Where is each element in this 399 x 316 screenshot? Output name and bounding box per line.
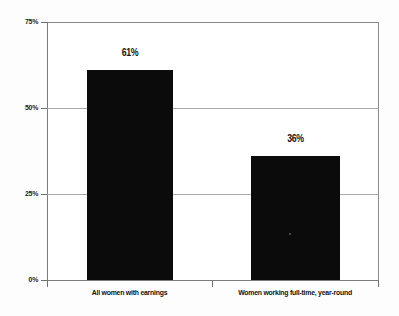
x-tick-mark-right: [378, 281, 379, 287]
x-category-label-1: All women with earnings: [54, 288, 206, 297]
bar-value-label-1: 61%: [92, 47, 168, 58]
y-tick-mark-25: [41, 194, 47, 195]
x-axis-line: [47, 280, 379, 281]
y-axis-line: [47, 22, 48, 281]
bar-value-label-2: 36%: [256, 133, 334, 144]
x-tick-mark-left: [47, 281, 48, 287]
bar-chart: 75% 50% 25% 0% 61% 36% All women with ea…: [0, 0, 399, 316]
y-tick-label-75: 75%: [9, 17, 38, 26]
scan-artifact: [289, 233, 291, 235]
y-tick-mark-75: [41, 22, 47, 23]
plot-right-border: [378, 22, 379, 281]
y-tick-label-25: 25%: [9, 189, 38, 198]
bar-all-women-with-earnings: [87, 70, 173, 280]
bar-women-working-full-time-year-round: [251, 156, 340, 280]
x-tick-mark-middle: [212, 281, 213, 287]
x-category-label-2: Women working full-time, year-round: [219, 288, 372, 297]
y-tick-label-50: 50%: [9, 103, 38, 112]
y-tick-label-0: 0%: [9, 275, 38, 284]
y-tick-mark-50: [41, 108, 47, 109]
plot-top-border: [47, 22, 379, 23]
